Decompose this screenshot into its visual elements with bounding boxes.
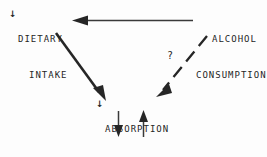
node-alcohol-consumption: ALCOHOL CONSUMPTION xyxy=(196,9,267,105)
node-dietary-intake-line1: DIETARY xyxy=(18,33,68,45)
edge-alcohol-to-dietary-arrowhead xyxy=(72,16,88,26)
dietary-intake-decrease-icon: ↓ xyxy=(9,10,17,19)
node-absorption-line1: ABSORPTION xyxy=(105,123,169,135)
node-dietary-intake-line2: INTAKE xyxy=(29,69,68,81)
node-alcohol-consumption-line2: CONSUMPTION xyxy=(196,69,267,81)
node-alcohol-consumption-line1: ALCOHOL xyxy=(212,33,267,45)
node-deficiency-state: DEFICIENCY STATE xyxy=(84,139,187,157)
edge-alcohol-to-absorption-arrowhead xyxy=(156,84,172,97)
edge-alcohol-to-dietary xyxy=(72,16,193,26)
uncertain-relationship-label: ? xyxy=(167,51,173,61)
flowchart-diagram: ↓ DIETARY INTAKE ALCOHOL CONSUMPTION ↓ A… xyxy=(0,0,267,157)
node-dietary-intake: DIETARY INTAKE xyxy=(18,9,68,105)
absorption-decrease-icon: ↓ xyxy=(96,100,104,109)
